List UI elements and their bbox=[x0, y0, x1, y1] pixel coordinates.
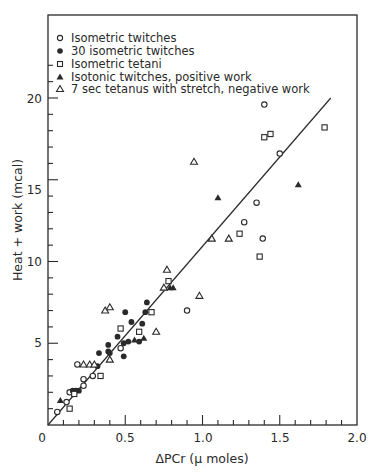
open-triangle-marker bbox=[196, 292, 203, 298]
legend-label: Isometric twitches bbox=[71, 31, 176, 45]
open-triangle-marker bbox=[160, 284, 167, 290]
filled-circle-icon bbox=[57, 48, 63, 54]
filled-circle-marker bbox=[144, 299, 150, 305]
open-square-marker bbox=[118, 326, 123, 331]
filled-circle-marker bbox=[122, 309, 128, 315]
filled-triangle-marker bbox=[57, 397, 64, 403]
legend-label: 7 sec tetanus with stretch, negative wor… bbox=[71, 82, 310, 96]
x-tick-label-0: 0 bbox=[38, 431, 46, 445]
open-circle-marker bbox=[64, 399, 69, 404]
open-square-marker bbox=[67, 406, 72, 411]
filled-circle-marker bbox=[121, 353, 127, 359]
x-tick-label-1-5: 1.5 bbox=[270, 431, 289, 445]
y-tick-label-20: 20 bbox=[27, 92, 42, 106]
x-axis-tick-labels: 0 0.5 1.0 1.5 2.0 bbox=[38, 431, 366, 445]
open-square-marker bbox=[262, 135, 267, 140]
y-tick-label-10: 10 bbox=[27, 255, 42, 269]
x-tick-label-0-5: 0.5 bbox=[115, 431, 134, 445]
open-circle-marker bbox=[277, 151, 282, 156]
open-square-marker bbox=[98, 373, 103, 378]
open-triangle-marker bbox=[191, 158, 198, 164]
open-circle-marker bbox=[81, 383, 86, 388]
y-axis-title: Heat + work (mcal) bbox=[10, 159, 25, 281]
y-tick-label-15: 15 bbox=[27, 183, 42, 197]
open-triangle-icon bbox=[57, 86, 64, 92]
series-open-square bbox=[67, 125, 327, 411]
open-circle-marker bbox=[90, 373, 95, 378]
filled-circle-marker bbox=[125, 339, 131, 345]
filled-triangle-marker bbox=[214, 194, 221, 200]
filled-circle-marker bbox=[96, 350, 102, 356]
open-square-icon bbox=[58, 62, 63, 67]
open-circle-marker bbox=[75, 362, 80, 367]
legend-item-isometric-twitches: Isometric twitches bbox=[57, 31, 176, 45]
open-square-marker bbox=[72, 391, 77, 396]
x-tick-label-1-0: 1.0 bbox=[193, 431, 212, 445]
filled-circle-marker bbox=[129, 319, 135, 325]
open-circle-marker bbox=[260, 236, 265, 241]
series-open-circle bbox=[55, 102, 283, 415]
series-open-triangle bbox=[80, 158, 232, 367]
filled-circle-marker bbox=[105, 342, 111, 348]
scatter-chart: 0 0.5 1.0 1.5 2.0 5 10 15 20 ΔPCr (μ mol… bbox=[0, 0, 382, 475]
filled-triangle-marker bbox=[295, 181, 302, 187]
open-circle-icon bbox=[57, 35, 62, 40]
filled-circle-marker bbox=[139, 321, 145, 327]
legend-item-tetanus-stretch: 7 sec tetanus with stretch, negative wor… bbox=[57, 82, 311, 96]
open-triangle-marker bbox=[80, 361, 87, 367]
legend: Isometric twitches 30 isometric twitches… bbox=[57, 31, 311, 96]
open-square-marker bbox=[322, 125, 327, 130]
filled-circle-marker bbox=[142, 309, 148, 315]
filled-triangle-marker bbox=[140, 335, 147, 341]
x-axis-title: ΔPCr (μ moles) bbox=[155, 451, 248, 466]
open-square-marker bbox=[237, 231, 242, 236]
x-axis-ticks bbox=[63, 415, 341, 425]
open-triangle-marker bbox=[225, 235, 232, 241]
filled-circle-marker bbox=[115, 334, 121, 340]
open-square-marker bbox=[137, 329, 142, 334]
open-square-marker bbox=[149, 310, 154, 315]
legend-label: 30 isometric twitches bbox=[71, 44, 195, 58]
open-circle-marker bbox=[262, 102, 267, 107]
open-triangle-marker bbox=[153, 328, 160, 334]
open-circle-marker bbox=[118, 345, 123, 350]
open-circle-marker bbox=[184, 308, 189, 313]
open-square-marker bbox=[257, 254, 262, 259]
legend-item-isometric-tetani: Isometric tetani bbox=[58, 57, 162, 71]
open-square-marker bbox=[166, 279, 171, 284]
y-axis-tick-labels: 5 10 15 20 bbox=[27, 92, 42, 350]
open-circle-marker bbox=[242, 220, 247, 225]
open-triangle-marker bbox=[106, 304, 113, 310]
series-filled-triangle bbox=[57, 181, 302, 403]
legend-item-30-isometric-twitches: 30 isometric twitches bbox=[57, 44, 194, 58]
y-tick-label-5: 5 bbox=[34, 336, 42, 350]
filled-triangle-marker bbox=[131, 336, 138, 342]
x-tick-label-2-0: 2.0 bbox=[347, 431, 366, 445]
open-square-marker bbox=[268, 131, 273, 136]
legend-label: Isometric tetani bbox=[71, 57, 162, 71]
open-circle-marker bbox=[55, 409, 60, 414]
open-circle-marker bbox=[81, 377, 86, 382]
filled-triangle-icon bbox=[57, 74, 64, 80]
open-triangle-marker bbox=[163, 266, 170, 272]
open-circle-marker bbox=[254, 200, 259, 205]
y-axis-ticks bbox=[48, 65, 58, 408]
